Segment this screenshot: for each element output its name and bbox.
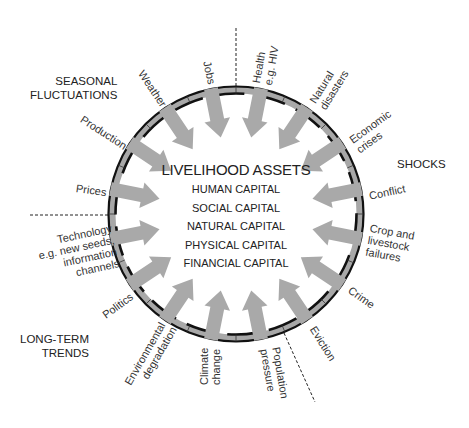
livelihood-assets-panel: LIVELIHOOD ASSETS HUMAN CAPITAL SOCIAL C… xyxy=(156,160,316,273)
group-label-line: FLUCTUATIONS xyxy=(30,88,117,102)
natural-capital: NATURAL CAPITAL xyxy=(156,217,316,236)
group-label-seasonal: SEASONAL FLUCTUATIONS xyxy=(30,74,117,102)
group-label-line: LONG-TERM xyxy=(20,332,89,346)
human-capital: HUMAN CAPITAL xyxy=(156,180,316,199)
group-label-trends: LONG-TERM TRENDS xyxy=(20,332,89,360)
physical-capital: PHYSICAL CAPITAL xyxy=(156,236,316,255)
arrow-natural-disasters xyxy=(269,100,318,156)
group-label-shocks: SHOCKS xyxy=(397,157,446,171)
group-label-line: TRENDS xyxy=(20,346,89,360)
group-label-line: SHOCKS xyxy=(397,157,446,171)
social-capital: SOCIAL CAPITAL xyxy=(156,199,316,218)
factor-label-climate: Climate change xyxy=(198,348,222,385)
factor-label-crop-livestock: Crop and livestock failures xyxy=(365,222,416,265)
financial-capital: FINANCIAL CAPITAL xyxy=(156,254,316,273)
label-line: Climate xyxy=(198,348,210,385)
group-label-line: SEASONAL xyxy=(30,74,117,88)
assets-title: LIVELIHOOD ASSETS xyxy=(156,160,316,180)
arrow-environment xyxy=(154,272,203,328)
label-line: change xyxy=(210,348,222,385)
